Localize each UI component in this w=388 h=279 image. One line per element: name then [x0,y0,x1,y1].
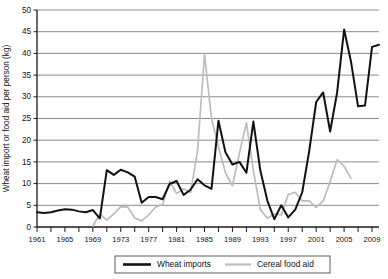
x-tick-label: 2001 [308,235,325,244]
x-tick-label: 1961 [29,235,46,244]
x-tick-label: 1993 [252,235,269,244]
y-axis-tick-labels-group: 05101520253035404550 [22,6,32,232]
y-tick-label: 45 [22,27,32,36]
x-axis-tick-labels-group: 1961196519691973197719811985198919931997… [29,235,381,244]
y-tick-label: 10 [22,179,32,188]
x-tick-label: 1985 [196,235,213,244]
y-tick-label: 35 [22,71,32,80]
y-tick-label: 5 [26,201,31,210]
x-axis-ticks-group [37,227,372,232]
x-tick-label: 2005 [336,235,353,244]
y-tick-label: 30 [22,92,32,101]
y-tick-label: 50 [22,6,32,15]
gridlines-group [37,10,379,205]
y-axis-title: Wheat import or food aid per person (kg) [2,45,11,193]
y-tick-label: 15 [22,158,32,167]
line-chart: 05101520253035404550 1961196519691973197… [0,0,388,279]
y-tick-label: 25 [22,114,32,123]
x-tick-label: 1973 [112,235,129,244]
x-tick-label: 1997 [280,235,297,244]
chart-canvas: 05101520253035404550 1961196519691973197… [0,0,388,279]
x-tick-label: 1965 [56,235,73,244]
x-tick-label: 1981 [168,235,185,244]
y-tick-label: 20 [22,136,32,145]
chart-legend: Wheat imports Cereal food aid [115,256,330,273]
x-tick-label: 1989 [224,235,241,244]
x-tick-label: 1969 [84,235,101,244]
x-tick-label: 2009 [364,235,381,244]
legend-label-wheat-imports: Wheat imports [157,259,211,269]
y-tick-label: 40 [22,49,32,58]
x-tick-label: 1977 [140,235,157,244]
y-tick-label: 0 [26,223,31,232]
legend-label-cereal-food-aid: Cereal food aid [257,259,314,269]
